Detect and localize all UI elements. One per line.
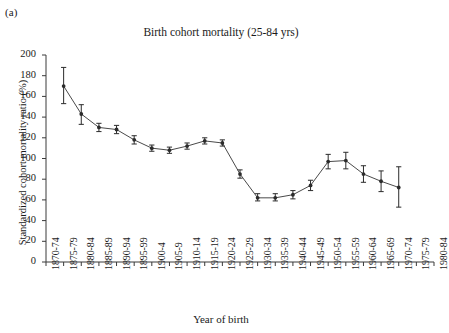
data-point [202, 138, 207, 144]
data-marker [344, 159, 348, 163]
data-point [273, 194, 278, 201]
data-marker [291, 193, 295, 197]
data-marker [309, 184, 313, 188]
data-marker [326, 160, 330, 164]
data-point [343, 152, 348, 169]
data-marker [185, 144, 189, 148]
data-point [290, 191, 295, 199]
data-marker [62, 84, 66, 88]
data-point [361, 166, 366, 183]
data-point [167, 147, 172, 153]
data-point [220, 140, 225, 146]
data-point [96, 123, 101, 131]
data-marker [132, 138, 136, 142]
data-point [79, 105, 84, 125]
data-marker [97, 126, 101, 130]
data-marker [379, 179, 383, 183]
data-line [64, 86, 399, 198]
data-point [308, 180, 313, 190]
data-marker [238, 172, 242, 176]
data-marker [256, 196, 260, 200]
data-marker [273, 196, 277, 200]
data-point [326, 154, 331, 168]
data-point [184, 143, 189, 149]
data-marker [168, 148, 172, 152]
data-marker [220, 141, 224, 145]
data-marker [79, 112, 83, 116]
data-marker [362, 172, 366, 176]
data-point [114, 125, 119, 133]
data-marker [150, 146, 154, 150]
data-point [132, 136, 137, 144]
data-marker [115, 128, 119, 132]
data-point [378, 171, 383, 192]
data-marker [203, 139, 207, 143]
data-point [61, 67, 66, 103]
data-point [396, 167, 401, 207]
data-point [149, 145, 154, 151]
data-marker [397, 186, 401, 190]
